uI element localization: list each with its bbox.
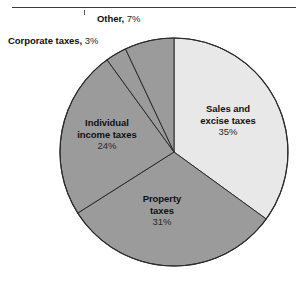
slice-label-property-name-line2: taxes <box>125 205 199 217</box>
slice-label-other: Other, 7% <box>97 13 140 25</box>
slice-label-individual-name-line1: Individual <box>66 117 148 129</box>
slice-label-corporate-taxes-name: Corporate taxes, <box>8 35 82 46</box>
slice-label-corporate-taxes: Corporate taxes, 3% <box>8 35 98 47</box>
slice-label-individual-income-taxes: Individual income taxes 24% <box>66 117 148 152</box>
slice-label-sales-value: 35% <box>190 126 266 138</box>
slice-label-property-value: 31% <box>125 216 199 228</box>
slice-label-sales-name-line2: excise taxes <box>190 115 266 127</box>
slice-label-other-name: Other, <box>97 13 124 24</box>
slice-label-corporate-taxes-value: 3% <box>85 35 99 46</box>
pie-chart-figure: Other, 7% Corporate taxes, 3% Sales and … <box>0 0 305 284</box>
slice-label-property-taxes: Property taxes 31% <box>125 193 199 228</box>
slice-label-property-name-line1: Property <box>125 193 199 205</box>
pie-slice-group <box>60 38 288 266</box>
slice-label-individual-name-line2: income taxes <box>66 129 148 141</box>
slice-label-individual-value: 24% <box>66 140 148 152</box>
slice-label-other-value: 7% <box>127 13 141 24</box>
slice-label-sales-name-line1: Sales and <box>190 103 266 115</box>
slice-label-sales-and-excise-taxes: Sales and excise taxes 35% <box>190 103 266 138</box>
